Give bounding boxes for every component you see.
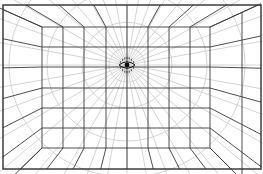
perspective-diagram [0,0,263,174]
floor-line [169,148,180,169]
radial-guide-line [127,65,263,174]
right-wall-line [210,108,261,134]
left-wall-line [3,148,42,174]
right-wall-line [210,88,261,102]
radial-guide-line [0,65,127,121]
ceiling-line [26,5,63,27]
radial-guide-line [127,65,263,174]
radial-guide-line [127,65,263,121]
room-grid [0,4,261,174]
radial-guide-line [127,65,263,174]
radial-guide-line [0,9,127,65]
floor-line [101,148,106,169]
ceiling-line [169,5,193,27]
perspective-drawing [0,0,263,174]
radial-guide-line [127,9,263,65]
radial-guide-line [0,0,127,65]
eye-pupil [125,63,130,68]
floor-line [73,148,84,169]
right-wall-line [210,36,261,47]
right-wall-line [210,67,261,68]
floor-line [148,148,153,169]
left-wall-line [3,39,42,47]
ceiling-line [94,5,106,27]
right-wall-line [210,128,261,167]
ceiling-line [148,5,160,27]
ceiling-line [59,5,84,27]
left-wall-line [3,88,42,99]
ceiling-line [190,5,226,27]
radial-guide-line [127,65,263,174]
radial-guide-line [127,65,263,174]
right-wall-line [210,4,261,27]
